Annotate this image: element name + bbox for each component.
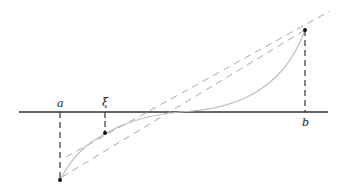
- diagram-canvas: a ξ b: [0, 0, 345, 193]
- label-a: a: [57, 97, 64, 110]
- label-b: b: [302, 116, 309, 129]
- secant-line: [62, 30, 305, 177]
- point-fxi: [103, 131, 107, 135]
- point-fb: [303, 28, 307, 32]
- point-fa: [58, 178, 62, 182]
- label-xi: ξ: [102, 96, 109, 109]
- tangent-line: [66, 11, 330, 157]
